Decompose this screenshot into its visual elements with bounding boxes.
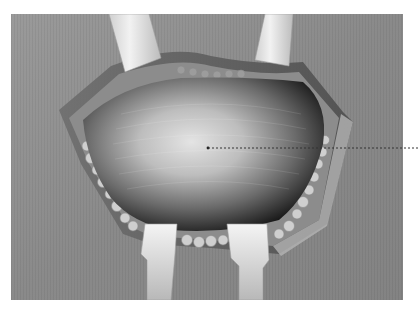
illustration-frame — [11, 14, 403, 300]
surgical-illustration — [11, 14, 403, 300]
